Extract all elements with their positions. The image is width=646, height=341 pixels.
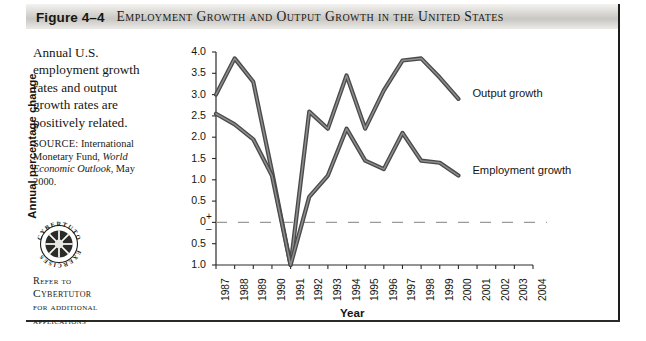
x-tick-label: 1998 xyxy=(425,278,436,301)
series-label-employment-growth: Employment growth xyxy=(472,164,571,176)
refer-line-1: Refer to xyxy=(33,274,155,287)
series-employment-growth xyxy=(216,114,458,265)
series-line-inner xyxy=(216,114,458,265)
x-tick-label: 1994 xyxy=(351,278,362,301)
cybertutor-badge-icon: CYBERTUTOR EXERCISES xyxy=(33,218,85,270)
figure-number: Figure 4–4 xyxy=(36,10,105,25)
x-tick-label: 1991 xyxy=(295,278,306,301)
x-axis-label: Year xyxy=(340,306,365,319)
series-line-inner xyxy=(216,58,458,265)
axis-sign-mark: + xyxy=(206,213,212,221)
series-line-outer xyxy=(216,114,458,265)
y-tick-label: 3.0 xyxy=(178,88,206,100)
x-tick-label: 1997 xyxy=(406,278,417,301)
figure-right-rule xyxy=(618,4,620,322)
figure-header: Figure 4–4 Employment Growth and Output … xyxy=(36,6,504,28)
cybertutor-refer-text: Refer to Cybertutor for additional appli… xyxy=(33,274,155,327)
y-tick-label: 0 xyxy=(178,215,206,227)
figure-title: Employment Growth and Output Growth in t… xyxy=(117,9,504,25)
y-tick-label: 2.5 xyxy=(178,109,206,121)
caption-source: SOURCE: International Monetary Fund, Wor… xyxy=(33,138,155,188)
figure-page: Figure 4–4 Employment Growth and Output … xyxy=(0,0,646,341)
y-tick-label: 0.5 xyxy=(178,194,206,206)
caption-column: Annual U.S. employment growth rates and … xyxy=(33,44,155,188)
y-tick-label: 2.0 xyxy=(178,130,206,142)
x-tick-label: 2000 xyxy=(462,278,473,301)
caption-lead-text: Annual U.S. employment growth rates and … xyxy=(33,44,155,131)
refer-line-3: for additional xyxy=(33,300,155,313)
x-tick-label: 1999 xyxy=(444,278,455,301)
x-tick-label: 1995 xyxy=(369,278,380,301)
y-tick-label: 0.5 xyxy=(178,237,206,249)
x-tick-label: 1996 xyxy=(388,278,399,301)
refer-line-4: applications xyxy=(33,314,155,327)
x-tick-label: 2002 xyxy=(500,278,511,301)
x-tick-label: 1990 xyxy=(276,278,287,301)
y-tick-label: 1.5 xyxy=(178,152,206,164)
series-line-outer xyxy=(216,58,458,265)
x-tick-label: 2004 xyxy=(537,278,548,301)
x-tick-label: 1992 xyxy=(313,278,324,301)
refer-line-2: Cybertutor xyxy=(33,287,155,300)
y-tick-label: 1.0 xyxy=(178,258,206,270)
x-tick-label: 1993 xyxy=(332,278,343,301)
y-tick-label: 3.5 xyxy=(178,66,206,78)
x-tick-label: 2003 xyxy=(518,278,529,301)
x-tick-label: 1987 xyxy=(220,278,231,301)
x-tick-label: 1989 xyxy=(257,278,268,301)
y-tick-label: 4.0 xyxy=(178,45,206,57)
source-label: SOURCE: xyxy=(33,138,78,149)
axis-sign-mark: – xyxy=(206,225,212,233)
series-label-output-growth: Output growth xyxy=(472,87,542,99)
x-tick-label: 2001 xyxy=(481,278,492,301)
x-tick-label: 1988 xyxy=(239,278,250,301)
series-output-growth xyxy=(216,58,458,265)
cybertutor-block: CYBERTUTOR EXERCISES Refer to Cybertutor… xyxy=(33,218,155,327)
y-tick-label: 1.0 xyxy=(178,173,206,185)
